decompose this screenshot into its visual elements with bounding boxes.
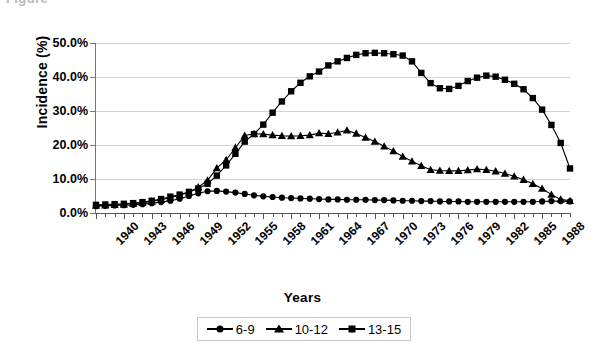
x-tick-label: 1988	[559, 219, 588, 248]
x-tick-label: 1952	[224, 219, 253, 248]
x-tick-mark-major	[375, 213, 376, 219]
gridline	[96, 179, 570, 180]
x-tick-mark-minor	[356, 213, 357, 217]
legend-entry-6-9[interactable]: 6-9	[207, 322, 255, 337]
plot-area	[96, 43, 570, 213]
chart-legend: 6-910-1213-15	[197, 317, 411, 341]
x-tick-mark-major	[291, 213, 292, 219]
x-tick-mark-minor	[226, 213, 227, 217]
y-tick-mark	[90, 77, 95, 78]
x-tick-mark-minor	[496, 213, 497, 217]
legend-marker-triangle-icon	[274, 325, 284, 333]
x-tick-mark-minor	[310, 213, 311, 217]
y-tick-mark	[90, 213, 95, 214]
y-tick-mark	[90, 111, 95, 112]
gridline	[96, 77, 570, 78]
gridline	[96, 145, 570, 146]
legend-marker-square-icon	[348, 326, 355, 333]
x-tick-mark-minor	[570, 213, 571, 217]
x-tick-mark-major	[263, 213, 264, 219]
legend-entry-13-15[interactable]: 13-15	[339, 322, 401, 337]
gridline	[96, 43, 570, 44]
y-tick-label: 10.0%	[53, 172, 88, 186]
x-tick-mark-minor	[440, 213, 441, 217]
x-tick-mark-minor	[366, 213, 367, 217]
y-tick-label: 20.0%	[53, 138, 88, 152]
x-tick-label: 1967	[364, 219, 393, 248]
x-tick-mark-minor	[524, 213, 525, 217]
x-tick-label: 1985	[531, 219, 560, 248]
x-tick-label: 1970	[392, 219, 421, 248]
x-tick-mark-major	[208, 213, 209, 219]
x-tick-mark-minor	[282, 213, 283, 217]
x-tick-mark-minor	[133, 213, 134, 217]
y-tick-label: 0.0%	[60, 206, 89, 220]
y-tick-mark	[90, 179, 95, 180]
x-tick-label: 1943	[141, 219, 170, 248]
x-tick-mark-minor	[217, 213, 218, 217]
x-tick-mark-minor	[161, 213, 162, 217]
x-tick-mark-major	[431, 213, 432, 219]
x-tick-mark-minor	[384, 213, 385, 217]
x-tick-mark-minor	[105, 213, 106, 217]
legend-label: 13-15	[368, 322, 401, 337]
legend-entry-10-12[interactable]: 10-12	[266, 322, 328, 337]
y-tick-label: 50.0%	[53, 36, 88, 50]
x-axis-line	[95, 213, 571, 214]
x-tick-mark-minor	[468, 213, 469, 217]
x-tick-mark-minor	[393, 213, 394, 217]
x-tick-mark-minor	[300, 213, 301, 217]
x-tick-mark-major	[96, 213, 97, 219]
x-tick-mark-major	[235, 213, 236, 219]
x-tick-mark-minor	[412, 213, 413, 217]
x-tick-mark-minor	[561, 213, 562, 217]
x-tick-mark-major	[152, 213, 153, 219]
x-tick-label: 1973	[420, 219, 449, 248]
legend-swatch-circle-icon	[207, 323, 233, 335]
x-tick-label: 1979	[475, 219, 504, 248]
y-tick-label: 30.0%	[53, 104, 88, 118]
x-tick-label: 1946	[169, 219, 198, 248]
x-tick-mark-major	[180, 213, 181, 219]
x-tick-label: 1955	[252, 219, 281, 248]
x-tick-mark-minor	[189, 213, 190, 217]
x-tick-mark-major	[542, 213, 543, 219]
x-tick-mark-major	[514, 213, 515, 219]
x-tick-mark-minor	[328, 213, 329, 217]
x-tick-mark-major	[319, 213, 320, 219]
y-tick-mark	[90, 145, 95, 146]
x-tick-mark-minor	[505, 213, 506, 217]
x-tick-mark-minor	[421, 213, 422, 217]
legend-swatch-square-icon	[339, 323, 365, 335]
gridline	[96, 111, 570, 112]
x-tick-mark-minor	[551, 213, 552, 217]
cropped-caption-fragment: Figure	[0, 0, 605, 16]
x-tick-label: 1964	[336, 219, 365, 248]
x-tick-mark-minor	[533, 213, 534, 217]
x-tick-mark-major	[347, 213, 348, 219]
x-tick-label: 1961	[308, 219, 337, 248]
x-tick-mark-minor	[142, 213, 143, 217]
x-tick-mark-minor	[115, 213, 116, 217]
x-tick-mark-minor	[338, 213, 339, 217]
x-tick-mark-minor	[449, 213, 450, 217]
x-tick-mark-minor	[477, 213, 478, 217]
x-tick-mark-major	[486, 213, 487, 219]
x-tick-label: 1949	[196, 219, 225, 248]
x-tick-mark-major	[403, 213, 404, 219]
x-tick-mark-major	[458, 213, 459, 219]
x-tick-mark-minor	[273, 213, 274, 217]
y-tick-mark	[90, 43, 95, 44]
x-tick-label: 1982	[503, 219, 532, 248]
x-tick-mark-minor	[245, 213, 246, 217]
legend-swatch-triangle-icon	[266, 323, 292, 335]
legend-label: 10-12	[295, 322, 328, 337]
x-tick-mark-minor	[170, 213, 171, 217]
x-tick-label: 1976	[447, 219, 476, 248]
x-tick-mark-major	[124, 213, 125, 219]
chart-figure: Figure Incidence (%) 0.0%10.0%20.0%30.0%…	[0, 0, 605, 356]
legend-label: 6-9	[236, 322, 255, 337]
legend-marker-circle-icon	[216, 326, 223, 333]
x-tick-mark-minor	[198, 213, 199, 217]
x-tick-label: 1958	[280, 219, 309, 248]
